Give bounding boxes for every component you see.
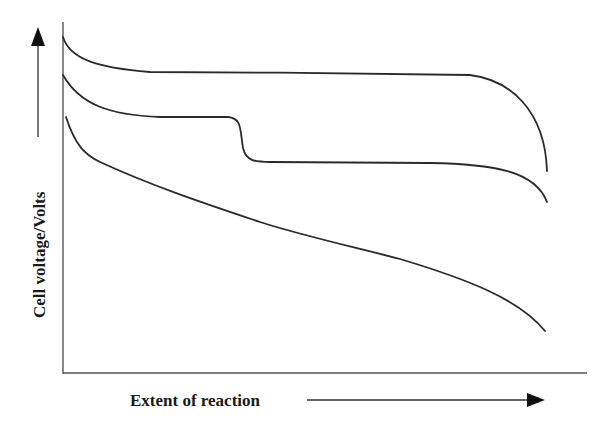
curve-two-step (63, 75, 547, 202)
curve-sloping (66, 117, 545, 331)
x-axis-label: Extent of reaction (130, 391, 261, 410)
up-arrow-icon (31, 27, 45, 46)
voltage-diagram: Cell voltage/Volts Extent of reaction (0, 0, 610, 427)
y-axis-label: Cell voltage/Volts (30, 191, 49, 318)
curve-flat-plateau (63, 37, 547, 171)
right-arrow-icon (527, 393, 545, 407)
